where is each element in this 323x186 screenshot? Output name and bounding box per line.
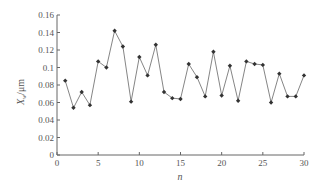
data-point-marker (294, 94, 298, 98)
data-point-marker (236, 99, 240, 103)
y-tick-label: 0.14 (38, 28, 54, 38)
y-axis-label: Xw/μm (15, 79, 27, 106)
y-tick-label: 0 (50, 150, 55, 160)
x-tick-label: 20 (217, 158, 227, 168)
data-point-marker (252, 62, 256, 66)
data-point-marker (88, 103, 92, 107)
data-point-marker (277, 71, 281, 75)
data-point-marker (261, 63, 265, 67)
x-tick-label: 25 (258, 158, 268, 168)
data-point-marker (244, 59, 248, 63)
data-point-marker (211, 50, 215, 54)
x-tick-label: 30 (300, 158, 310, 168)
x-axis-label: n (178, 171, 183, 182)
y-tick-label: 0.02 (38, 133, 54, 143)
data-point-marker (71, 106, 75, 110)
data-point-marker (285, 94, 289, 98)
data-point-marker (154, 43, 158, 47)
x-tick-label: 5 (96, 158, 101, 168)
series-line (65, 31, 304, 108)
y-tick-label: 0.06 (38, 98, 54, 108)
data-point-marker (269, 100, 273, 104)
x-tick-label: 15 (176, 158, 186, 168)
line-chart: 00.020.040.060.080.10.120.140.16 0510152… (0, 0, 323, 186)
x-tick-label: 0 (55, 158, 60, 168)
data-point-marker (137, 55, 141, 59)
data-point-marker (80, 90, 84, 94)
y-tick-label: 0.1 (43, 63, 54, 73)
svg-text:Xw/μm: Xw/μm (15, 79, 27, 106)
y-tick-label: 0.08 (38, 80, 54, 90)
data-point-marker (178, 97, 182, 101)
data-point-marker (129, 99, 133, 103)
x-tick-label: 10 (135, 158, 145, 168)
data-point-marker (63, 78, 67, 82)
data-point-marker (187, 62, 191, 66)
data-point-marker (121, 44, 125, 48)
data-point-marker (203, 94, 207, 98)
y-axis-label-unit: /μm (15, 79, 26, 95)
data-point-marker (219, 93, 223, 97)
data-point-marker (228, 64, 232, 68)
y-tick-label: 0.12 (38, 45, 54, 55)
y-tick-label: 0.16 (38, 10, 54, 20)
data-point-marker (112, 29, 116, 33)
data-point-marker (195, 75, 199, 79)
y-tick-label: 0.04 (38, 115, 54, 125)
data-point-marker (145, 73, 149, 77)
data-point-marker (302, 73, 306, 77)
x-axis-ticks: 051015202530 (55, 152, 309, 168)
data-series (63, 29, 306, 110)
